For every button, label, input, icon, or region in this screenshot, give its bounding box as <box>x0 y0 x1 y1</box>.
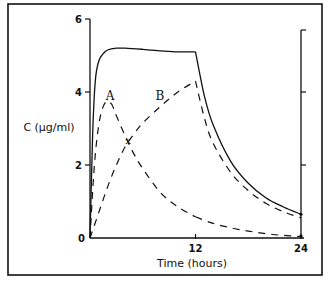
x-axis-ticks: 1224 <box>189 234 308 254</box>
y-axis-label: C (µg/ml) <box>23 121 74 134</box>
series-total-line <box>90 48 196 238</box>
y-tick-label: 6 <box>75 14 82 25</box>
end-point-marker <box>299 235 302 238</box>
y-tick-label: 2 <box>75 160 82 171</box>
plot-area <box>90 48 303 238</box>
y-tick-label: 0 <box>78 233 85 244</box>
series-b-line <box>196 81 302 218</box>
curve-b-label: B <box>156 89 165 103</box>
y-axis-ticks: 0246 <box>75 14 90 244</box>
series-b-line <box>90 81 196 238</box>
x-axis-label: Time (hours) <box>156 257 227 270</box>
right-axis-ticks <box>301 30 306 165</box>
y-tick-label: 4 <box>75 87 82 98</box>
series-a-line <box>196 217 302 237</box>
x-tick-label: 12 <box>189 243 203 254</box>
series-a-line <box>90 101 196 238</box>
end-point-marker <box>299 213 302 216</box>
curve-a-label: A <box>105 89 115 103</box>
concentration-time-chart: 0246 1224 C (µg/ml) Time (hours) A B x <box>0 0 333 289</box>
crossing-mark: x <box>125 135 131 146</box>
x-tick-label: 24 <box>294 243 308 254</box>
